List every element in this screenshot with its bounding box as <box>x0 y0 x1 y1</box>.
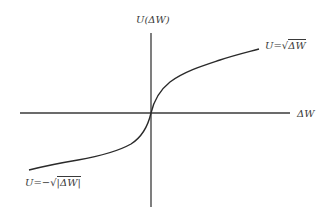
y-axis-label: U(ΔW) <box>136 15 170 25</box>
lower-lhs: U=− <box>25 177 50 188</box>
lower-curve-label: U=−√|ΔW| <box>25 178 81 188</box>
upper-curve-label: U=√ΔW <box>265 41 306 51</box>
upper-lhs: U= <box>265 40 282 51</box>
upper-arg: ΔW <box>288 39 306 51</box>
curve-negative-sqrt <box>29 113 151 170</box>
curve-positive-sqrt <box>151 49 259 113</box>
lower-arg: |ΔW| <box>57 176 81 188</box>
sqrt-symbol-lower: √|ΔW| <box>50 178 81 188</box>
x-axis-label: ΔW <box>297 109 315 119</box>
sqrt-symbol-upper: √ΔW <box>282 41 306 51</box>
